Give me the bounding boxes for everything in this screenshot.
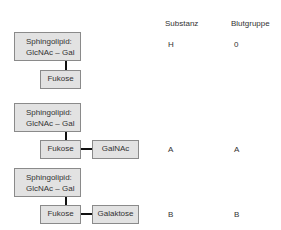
box-line2: GlcNAc – Gal [26,118,80,129]
sphingolipid-box: Sphingolipid: GlcNAc – Gal [14,168,81,197]
fucose-box: Fukose [40,70,81,89]
galaktose-box: Galaktose [92,205,139,224]
substanz-value: A [168,145,173,154]
substanz-value: H [168,40,174,49]
blutgruppe-value: A [234,145,239,154]
box-line1: Sphingolipid: [26,36,80,47]
sphingolipid-box: Sphingolipid: GlcNAc – Gal [14,103,81,132]
blutgruppe-value: B [234,210,239,219]
fucose-box: Fukose [40,205,81,224]
box-line2: GlcNAc – Gal [26,47,80,58]
header-blutgruppe: Blutgruppe [231,19,270,28]
sphingolipid-box: Sphingolipid: GlcNAc – Gal [14,32,81,61]
blutgruppe-value: 0 [234,40,238,49]
header-substanz: Substanz [165,19,198,28]
box-line2: GlcNAc – Gal [26,183,80,194]
fucose-box: Fukose [40,140,81,159]
box-line1: Sphingolipid: [26,107,80,118]
galnac-box: GalNAc [92,140,139,159]
box-line1: Sphingolipid: [26,172,80,183]
substanz-value: B [168,210,173,219]
